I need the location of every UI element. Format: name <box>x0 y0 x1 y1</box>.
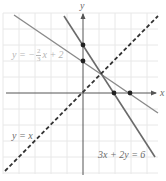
y-axis-arrow-icon <box>81 13 86 19</box>
x-axis-label: x <box>160 88 164 98</box>
point-2-0 <box>112 91 117 96</box>
y-axis <box>81 13 86 175</box>
equation-suffix: x + 2 <box>42 49 63 60</box>
y-axis-label: y <box>80 1 84 11</box>
equation-label-line3: y = x <box>12 131 33 141</box>
fraction: 23 <box>36 48 42 63</box>
x-axis-arrow-icon <box>151 91 157 96</box>
point-0-2 <box>81 59 86 64</box>
point-0-3 <box>81 43 86 48</box>
equation-label-line1: y = −23x + 2 <box>12 48 64 63</box>
equation-prefix: y = − <box>12 49 35 60</box>
point-3-0 <box>128 91 133 96</box>
equation-label-line2: 3x + 2y = 6 <box>98 150 145 160</box>
line-y-equals-neg-two-thirds-x-plus-2 <box>14 15 158 113</box>
fraction-denominator: 3 <box>36 56 42 63</box>
line-3x-plus-2y-equals-6 <box>64 16 155 157</box>
x-axis <box>6 91 157 96</box>
